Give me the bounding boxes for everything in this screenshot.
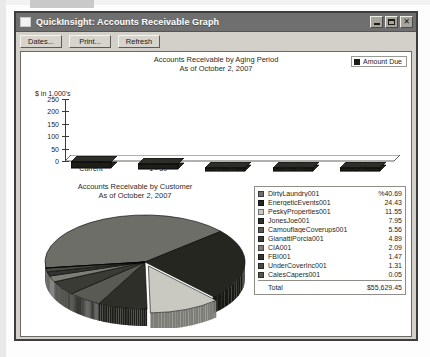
x-axis-label: 31 - 60 — [195, 165, 255, 172]
legend-customer-name: CalesCapers001 — [268, 271, 388, 278]
x-axis-label: > 90 — [330, 165, 390, 172]
refresh-button[interactable]: Refresh — [118, 35, 160, 48]
window-icon — [20, 17, 31, 27]
legend-swatch-icon — [258, 272, 264, 278]
legend-swatch-icon — [258, 209, 264, 215]
y-axis-tick — [62, 124, 69, 125]
window-controls: ✕ — [370, 16, 414, 28]
legend-row: JonesJoe0017.95 — [258, 216, 402, 225]
legend-customer-name: CamouflageCoverups001 — [268, 226, 388, 233]
print-button[interactable]: Print... — [69, 35, 111, 48]
legend-customer-percent: 24.43 — [384, 199, 402, 206]
y-axis-tick — [62, 149, 69, 150]
legend-total-row: Total$55,629.45 — [258, 280, 402, 292]
scan-artifact-left — [0, 0, 6, 357]
title-bar: QuickInsight: Accounts Receivable Graph … — [16, 13, 416, 32]
legend-swatch-icon — [258, 218, 264, 224]
pie-graphic — [39, 204, 251, 328]
y-axis-tick — [62, 99, 69, 100]
y-axis-tick-label: 250 — [35, 96, 59, 103]
legend-row: GianattiPorcia0014.89 — [258, 234, 402, 243]
close-icon: ✕ — [401, 17, 412, 27]
legend-customer-name: PeskyProperties001 — [268, 208, 385, 215]
x-axis-label: 1 - 30 — [128, 165, 188, 172]
legend-customer-percent: 1.47 — [388, 253, 402, 260]
dates-button[interactable]: Dates... — [20, 35, 62, 48]
legend-row: PeskyProperties00111.55 — [258, 207, 402, 216]
legend-customer-percent: %40.69 — [378, 190, 402, 197]
customer-pie-chart: Accounts Receivable by Customer As of Oc… — [21, 182, 411, 334]
aging-period-bar-chart: Accounts Receivable by Aging Period As o… — [21, 52, 411, 182]
legend-swatch-icon — [258, 200, 264, 206]
scan-artifact-corner — [30, 0, 94, 8]
toolbar: Dates... Print... Refresh — [16, 32, 416, 49]
y-axis-tick — [62, 136, 69, 137]
close-button[interactable]: ✕ — [400, 16, 413, 28]
bar-plot-area: 050100150200250Current1 - 3031 - 6061 - … — [35, 99, 395, 171]
legend-customer-percent: 4.89 — [388, 235, 402, 242]
screenshot-page: QuickInsight: Accounts Receivable Graph … — [0, 0, 430, 357]
y-axis-tick-label: 150 — [35, 121, 59, 128]
amount-due-swatch-icon — [354, 59, 360, 65]
pie-chart-title: Accounts Receivable by Customer As of Oc… — [21, 182, 249, 200]
legend-customer-percent: 11.55 — [385, 208, 402, 215]
x-axis-label: Current — [61, 165, 121, 172]
legend-row: DirtyLaundry001%40.69 — [258, 189, 402, 198]
legend-customer-name: JonesJoe001 — [268, 217, 388, 224]
legend-row: CalesCapers0010.05 — [258, 270, 402, 279]
bar-chart-legend: Amount Due — [351, 56, 407, 67]
legend-total-label: Total — [258, 284, 367, 291]
legend-row: CamouflageCoverups0015.56 — [258, 225, 402, 234]
legend-customer-name: DirtyLaundry001 — [268, 190, 378, 197]
quickinsight-window: QuickInsight: Accounts Receivable Graph … — [14, 11, 418, 341]
legend-customer-name: CIA001 — [268, 244, 388, 251]
report-client-area: Accounts Receivable by Aging Period As o… — [20, 51, 412, 337]
pie-chart-legend-table: DirtyLaundry001%40.69EnergeticEvents0012… — [254, 186, 406, 295]
legend-swatch-icon — [258, 227, 264, 233]
y-axis-tick-label: 100 — [35, 133, 59, 140]
amount-due-label: Amount Due — [363, 58, 402, 65]
minimize-button[interactable] — [370, 16, 383, 28]
pie-chart-title-line2: As of October 2, 2007 — [21, 191, 249, 200]
legend-customer-name: UnderCoverInc001 — [268, 262, 388, 269]
legend-customer-percent: 0.05 — [388, 271, 402, 278]
y-axis-line — [65, 99, 66, 161]
legend-customer-name: EnergeticEvents001 — [268, 199, 384, 206]
legend-customer-percent: 2.09 — [388, 244, 402, 251]
legend-swatch-icon — [258, 191, 264, 197]
window-title: QuickInsight: Accounts Receivable Graph — [36, 17, 370, 27]
legend-row: FBI0011.47 — [258, 252, 402, 261]
legend-swatch-icon — [258, 263, 264, 269]
legend-customer-name: GianattiPorcia001 — [268, 235, 388, 242]
y-axis-tick — [62, 111, 69, 112]
y-axis-tick-label: 0 — [35, 158, 59, 165]
maximize-button[interactable] — [385, 16, 398, 28]
legend-swatch-icon — [258, 236, 264, 242]
pie-chart-title-line1: Accounts Receivable by Customer — [21, 182, 249, 191]
legend-row: CIA0012.09 — [258, 243, 402, 252]
legend-customer-percent: 5.56 — [388, 226, 402, 233]
legend-customer-percent: 7.95 — [388, 217, 402, 224]
legend-customer-percent: 1.31 — [388, 262, 402, 269]
legend-swatch-icon — [258, 254, 264, 260]
legend-row: EnergeticEvents00124.43 — [258, 198, 402, 207]
y-axis-tick-label: 50 — [35, 146, 59, 153]
legend-row: UnderCoverInc0011.31 — [258, 261, 402, 270]
legend-customer-name: FBI001 — [268, 253, 388, 260]
y-axis-tick-label: 200 — [35, 108, 59, 115]
legend-total-value: $55,629.45 — [367, 284, 402, 291]
x-axis-label: 61 - 90 — [263, 165, 323, 172]
legend-swatch-icon — [258, 245, 264, 251]
